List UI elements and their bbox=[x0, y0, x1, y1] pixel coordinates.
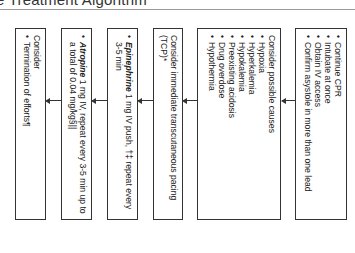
list-item: Epinephrine 1 mg IV push, †‡ repeat ever… bbox=[114, 35, 134, 215]
step-termination: Consider Termination of efforts¶ bbox=[15, 28, 46, 220]
step-atropine: Atropine 1 mg IV, repeat every 3-5 min u… bbox=[61, 28, 92, 220]
list-item: Hypoxia bbox=[257, 35, 267, 215]
termination-heading: Consider bbox=[32, 35, 42, 215]
title-divider bbox=[0, 9, 355, 10]
list-item: Drug overdose bbox=[217, 35, 227, 215]
list-item: Obtain IV access bbox=[313, 35, 323, 215]
confirm-list: Continue CPR Intubate at once Obtain IV … bbox=[303, 35, 343, 215]
list-item: Hypokalemia bbox=[237, 35, 247, 215]
list-item: Termination of efforts¶ bbox=[22, 35, 32, 215]
drug-name: Atropine bbox=[78, 42, 88, 77]
causes-heading: Consider possible causes bbox=[267, 35, 277, 215]
page-title: e Treatment Algorithm bbox=[0, 0, 147, 8]
arrow-left bbox=[282, 100, 295, 101]
list-item: Atropine 1 mg IV, repeat every 3-5 min u… bbox=[68, 35, 88, 215]
step-possible-causes: Consider possible causes Hypoxia Hyperka… bbox=[197, 28, 281, 220]
list-item: Confirm asystole in more than one lead bbox=[303, 35, 313, 215]
pacing-text: Consider immediate transcutaneous pacing… bbox=[159, 35, 179, 215]
list-item: Preexisting acidosis bbox=[227, 35, 237, 215]
arrow-left bbox=[138, 100, 153, 101]
list-item: Intubate at once bbox=[323, 35, 333, 215]
atropine-list: Atropine 1 mg IV, repeat every 3-5 min u… bbox=[68, 35, 88, 215]
step-transcutaneous-pacing: Consider immediate transcutaneous pacing… bbox=[153, 28, 183, 220]
list-item: Continue CPR bbox=[333, 35, 343, 215]
list-item: Hypothermia bbox=[207, 35, 217, 215]
list-item: Hyperkalemia bbox=[247, 35, 257, 215]
step-epinephrine: Epinephrine 1 mg IV push, †‡ repeat ever… bbox=[107, 28, 138, 220]
causes-list: Hypoxia Hyperkalemia Hypokalemia Preexis… bbox=[207, 35, 267, 215]
arrow-left bbox=[183, 100, 197, 101]
termination-list: Termination of efforts¶ bbox=[22, 35, 32, 215]
arrow-left bbox=[92, 100, 107, 101]
arrow-left bbox=[46, 100, 61, 101]
drug-name: Epinephrine bbox=[124, 42, 134, 92]
epinephrine-list: Epinephrine 1 mg IV push, †‡ repeat ever… bbox=[114, 35, 134, 215]
step-confirm-asystole: Continue CPR Intubate at once Obtain IV … bbox=[295, 28, 347, 220]
